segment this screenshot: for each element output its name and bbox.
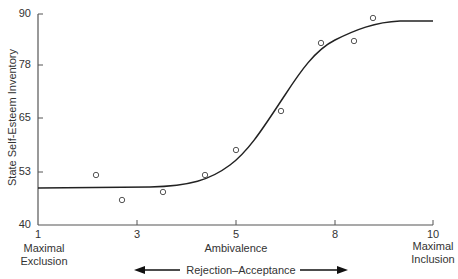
x-desc-maximal-exclusion: Maximal Exclusion [14, 242, 74, 268]
x-desc-ambivalence: Ambivalence [196, 242, 276, 255]
x-tick-8: 8 [325, 228, 345, 241]
fitted-curve [38, 21, 433, 188]
data-points [93, 15, 375, 202]
x-desc-maximal-inclusion: Maximal Inclusion [408, 240, 458, 266]
x-tick-1: 1 [28, 228, 48, 241]
y-tick-90: 90 [9, 7, 31, 19]
x-tick-5: 5 [226, 228, 246, 241]
x-tick-3: 3 [127, 228, 147, 241]
x-axis-title: Rejection–Acceptance [184, 264, 298, 277]
y-axis-title: State Self-Esteem Inventory [6, 49, 18, 186]
